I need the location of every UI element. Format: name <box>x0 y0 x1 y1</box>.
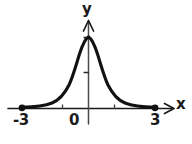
x-tick-label-zero: 0 <box>69 113 79 128</box>
x-axis-label: x <box>176 97 186 112</box>
y-axis-label: y <box>82 2 92 17</box>
x-tick-label-3: 3 <box>150 113 160 128</box>
x-tick-label-minus3: -3 <box>13 113 29 128</box>
bell-curve-figure: -3 0 3 x y <box>0 0 192 144</box>
